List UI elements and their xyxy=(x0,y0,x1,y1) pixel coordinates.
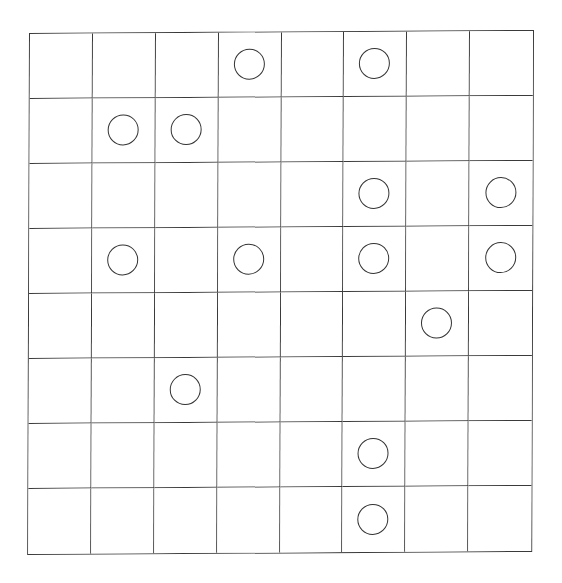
board-cell-r2-c2[interactable] xyxy=(155,163,218,228)
board-cell-r5-c4[interactable] xyxy=(280,357,343,422)
board-cell-r0-c7[interactable] xyxy=(470,31,533,96)
board-cell-r2-c0[interactable] xyxy=(29,164,92,229)
board-grid xyxy=(27,30,534,555)
board-cell-r1-c6[interactable] xyxy=(407,96,470,161)
circle-icon xyxy=(358,503,389,534)
board-cell-r3-c2[interactable] xyxy=(155,228,218,293)
board-cell-r3-c7[interactable] xyxy=(469,226,532,291)
board-cell-r7-c4[interactable] xyxy=(280,487,343,552)
board-cell-r1-c5[interactable] xyxy=(344,97,407,162)
board-cell-r7-c1[interactable] xyxy=(91,488,154,553)
board-cell-r6-c2[interactable] xyxy=(154,423,217,488)
board-cell-r7-c3[interactable] xyxy=(217,487,280,552)
board-cell-r2-c5[interactable] xyxy=(344,162,407,227)
board-cell-r7-c2[interactable] xyxy=(154,488,217,553)
board-cell-r7-c6[interactable] xyxy=(405,486,468,551)
circle-icon xyxy=(485,177,516,208)
board-cell-r5-c5[interactable] xyxy=(343,357,406,422)
circle-icon xyxy=(107,114,138,145)
board-cell-r0-c6[interactable] xyxy=(407,31,470,96)
board-cell-r1-c2[interactable] xyxy=(155,98,218,163)
board-cell-r4-c6[interactable] xyxy=(406,291,469,356)
board-cell-r4-c2[interactable] xyxy=(155,293,218,358)
board-cell-r2-c7[interactable] xyxy=(469,161,532,226)
board-cell-r3-c5[interactable] xyxy=(343,227,406,292)
board-cell-r6-c4[interactable] xyxy=(280,422,343,487)
board-cell-r4-c3[interactable] xyxy=(217,292,280,357)
board-cell-r3-c0[interactable] xyxy=(29,229,92,294)
board-cell-r7-c5[interactable] xyxy=(343,487,406,552)
board-cell-r5-c0[interactable] xyxy=(29,359,92,424)
board-cell-r1-c1[interactable] xyxy=(92,98,155,163)
circle-icon xyxy=(359,48,390,79)
board-cell-r1-c3[interactable] xyxy=(218,97,281,162)
board-cell-r6-c5[interactable] xyxy=(343,422,406,487)
board-cell-r4-c0[interactable] xyxy=(29,294,92,359)
board-cell-r1-c7[interactable] xyxy=(470,96,533,161)
circle-icon xyxy=(170,114,201,145)
board-cell-r0-c0[interactable] xyxy=(30,34,93,99)
board-cell-r3-c6[interactable] xyxy=(406,226,469,291)
board-cell-r4-c7[interactable] xyxy=(469,291,532,356)
circle-icon xyxy=(107,244,138,275)
board-cell-r2-c1[interactable] xyxy=(92,163,155,228)
board-cell-r7-c7[interactable] xyxy=(468,486,531,551)
board-cell-r2-c6[interactable] xyxy=(407,161,470,226)
board-cell-r3-c4[interactable] xyxy=(281,227,344,292)
circle-icon xyxy=(421,307,452,338)
board-cell-r5-c7[interactable] xyxy=(469,356,532,421)
board-cell-r5-c6[interactable] xyxy=(406,356,469,421)
board-cell-r3-c3[interactable] xyxy=(218,227,281,292)
board-cell-r6-c3[interactable] xyxy=(217,422,280,487)
board-cell-r3-c1[interactable] xyxy=(92,228,155,293)
circle-icon xyxy=(358,438,389,469)
board-cell-r0-c1[interactable] xyxy=(93,33,156,98)
board-cell-r4-c5[interactable] xyxy=(343,292,406,357)
board-cell-r0-c4[interactable] xyxy=(281,32,344,97)
game-board xyxy=(27,30,534,555)
circle-icon xyxy=(233,49,264,80)
board-cell-r4-c4[interactable] xyxy=(280,292,343,357)
circle-icon xyxy=(358,243,389,274)
board-cell-r6-c0[interactable] xyxy=(28,424,91,489)
circle-icon xyxy=(233,244,264,275)
board-cell-r0-c5[interactable] xyxy=(344,32,407,97)
circle-icon xyxy=(359,178,390,209)
board-cell-r7-c0[interactable] xyxy=(28,489,91,554)
board-cell-r2-c3[interactable] xyxy=(218,162,281,227)
board-cell-r5-c2[interactable] xyxy=(154,358,217,423)
board-cell-r1-c0[interactable] xyxy=(30,99,93,164)
circle-icon xyxy=(485,242,516,273)
board-cell-r5-c1[interactable] xyxy=(92,358,155,423)
board-cell-r6-c7[interactable] xyxy=(469,421,532,486)
board-cell-r6-c6[interactable] xyxy=(406,421,469,486)
board-cell-r1-c4[interactable] xyxy=(281,97,344,162)
board-cell-r0-c3[interactable] xyxy=(218,32,281,97)
board-cell-r6-c1[interactable] xyxy=(91,423,154,488)
board-cell-r5-c3[interactable] xyxy=(217,357,280,422)
board-cell-r2-c4[interactable] xyxy=(281,162,344,227)
circle-icon xyxy=(169,374,200,405)
board-cell-r4-c1[interactable] xyxy=(92,293,155,358)
board-cell-r0-c2[interactable] xyxy=(156,33,219,98)
